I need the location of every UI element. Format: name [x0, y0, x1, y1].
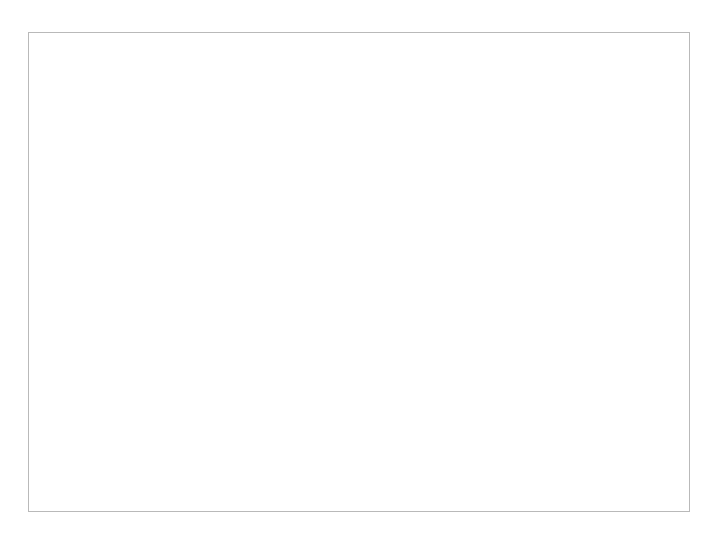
- figure-frame: [28, 32, 690, 512]
- figure-container: 50% Standard Deviation 0.811.21.41.61.82…: [0, 0, 724, 541]
